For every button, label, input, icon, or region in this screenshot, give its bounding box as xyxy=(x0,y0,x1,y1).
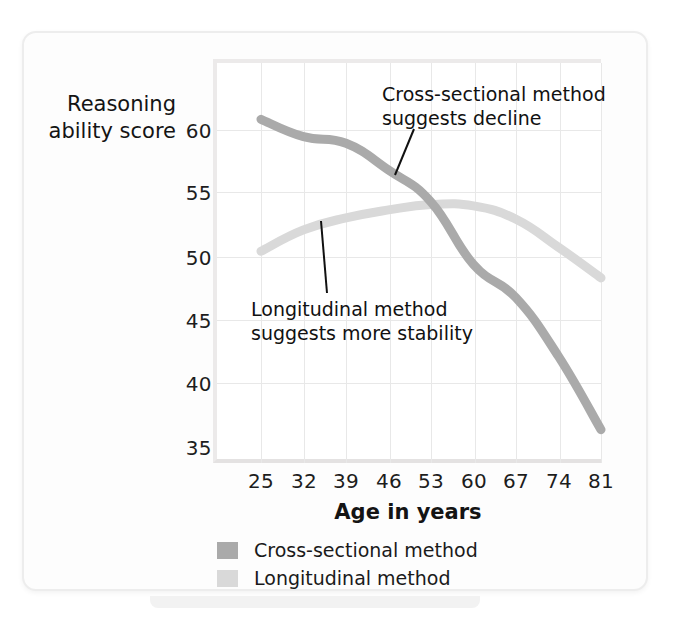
legend-swatch-cross-sectional xyxy=(217,542,238,559)
legend-swatch-longitudinal xyxy=(217,570,238,587)
x-tick-label-74: 74 xyxy=(537,469,581,493)
chart-legend: Cross-sectional method Longitudinal meth… xyxy=(217,536,478,592)
y-tick-label-45: 45 xyxy=(166,309,212,333)
legend-label-longitudinal: Longitudinal method xyxy=(254,567,450,589)
legend-label-cross-sectional: Cross-sectional method xyxy=(254,539,478,561)
x-tick-label-53: 53 xyxy=(409,469,453,493)
y-tick-label-35: 35 xyxy=(166,436,212,460)
x-tick-label-46: 46 xyxy=(367,469,411,493)
x-tick-label-81: 81 xyxy=(579,469,623,493)
y-tick-label-55: 55 xyxy=(166,181,212,205)
legend-item-longitudinal: Longitudinal method xyxy=(217,564,478,592)
y-tick-label-60: 60 xyxy=(166,119,212,143)
y-tick-label-40: 40 xyxy=(166,372,212,396)
x-tick-label-67: 67 xyxy=(494,469,538,493)
legend-item-cross-sectional: Cross-sectional method xyxy=(217,536,478,564)
series-line-longitudinal xyxy=(261,204,601,278)
x-axis-title: Age in years xyxy=(283,500,533,524)
annotation-cross-sectional: Cross-sectional method suggests decline xyxy=(382,82,606,130)
y-tick-label-50: 50 xyxy=(166,246,212,270)
x-tick-label-39: 39 xyxy=(324,469,368,493)
x-tick-label-32: 32 xyxy=(282,469,326,493)
reasoning-ability-line-chart: Reasoning ability score 60 55 50 45 40 3… xyxy=(0,0,673,644)
x-tick-label-25: 25 xyxy=(239,469,283,493)
y-axis-title: Reasoning ability score xyxy=(26,91,176,145)
x-tick-label-60: 60 xyxy=(452,469,496,493)
series-line-cross-sectional xyxy=(261,119,601,429)
annotation-longitudinal: Longitudinal method suggests more stabil… xyxy=(251,297,473,345)
